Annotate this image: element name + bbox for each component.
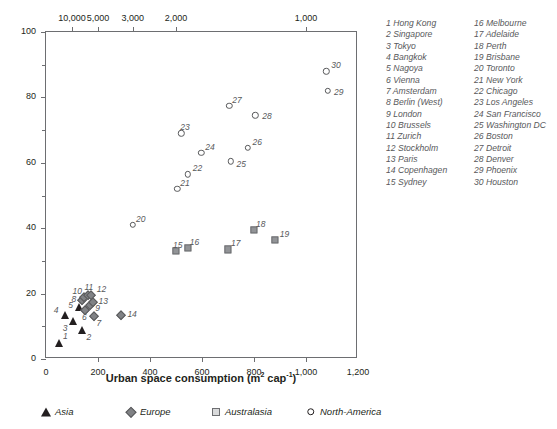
city-index-item: 17 Adelaide <box>474 29 552 40</box>
y-tick <box>41 228 46 229</box>
x-tick-top <box>176 27 177 32</box>
data-point-label: 4 <box>54 305 59 315</box>
city-index-number: 11 <box>386 131 395 141</box>
city-index-item: 30 Houston <box>474 177 552 188</box>
legend-item-europe[interactable]: Europe <box>125 406 171 417</box>
legend-item-north-america[interactable]: North-America <box>305 406 381 417</box>
x-tick <box>98 357 99 362</box>
city-index-item: 9 London <box>386 109 464 120</box>
legend-item-australasia[interactable]: Australasia <box>210 406 272 417</box>
city-index-item: 4 Bangkok <box>386 52 464 63</box>
city-index-item: 16 Melbourne <box>474 18 552 29</box>
y-tick-label: 40 <box>6 222 36 232</box>
x-tick-label: 1,000 <box>281 367 331 377</box>
city-index-column-left: 1 Hong Kong2 Singapore3 Tokyo4 Bangkok5 … <box>386 18 464 188</box>
data-point-label: 2 <box>86 332 91 342</box>
city-index-name: San Francisco <box>484 109 541 119</box>
data-point-label: 13 <box>99 296 108 306</box>
data-point-label: 29 <box>334 87 343 97</box>
city-index-number: 29 <box>474 165 484 175</box>
city-index-number: 17 <box>474 29 484 39</box>
city-index-number: 18 <box>474 41 484 51</box>
city-index-item: 28 Denver <box>474 154 552 165</box>
city-index-name: Berlin (West) <box>391 97 443 107</box>
y-tick-minor <box>42 130 46 131</box>
city-index-item: 14 Copenhagen <box>386 165 464 176</box>
city-index-number: 10 <box>386 120 396 130</box>
data-point-label: 16 <box>190 237 199 247</box>
city-index-name: Perth <box>484 41 507 51</box>
filled-triangle-marker <box>69 317 77 325</box>
city-index-number: 30 <box>474 177 484 187</box>
x-tick-label-top: 2,000 <box>151 13 201 23</box>
city-index-name: Houston <box>484 177 518 187</box>
y-tick-minor <box>42 65 46 66</box>
filled-diamond-marker <box>117 310 126 319</box>
city-index-name: Toronto <box>484 63 515 73</box>
city-index-name: London <box>391 109 422 119</box>
city-index-number: 14 <box>386 165 396 175</box>
city-index-number: 24 <box>474 109 484 119</box>
data-point-label: 22 <box>193 163 202 173</box>
data-point-label: 19 <box>280 229 289 239</box>
data-point-label: 10 <box>72 286 81 296</box>
city-index-name: Stockholm <box>396 143 439 153</box>
city-index-number: 27 <box>474 143 484 153</box>
city-index-name: Boston <box>484 131 513 141</box>
city-index-item: 29 Phoenix <box>474 165 552 176</box>
city-index-item: 21 New York <box>474 75 552 86</box>
data-point-label: 24 <box>205 142 214 152</box>
y-tick-minor <box>42 261 46 262</box>
city-index-item: 5 Nagoya <box>386 63 464 74</box>
filled-triangle-marker <box>61 311 69 319</box>
data-point-label: 28 <box>262 111 271 121</box>
city-index-item: 25 Washington DC <box>474 120 552 131</box>
y-tick <box>41 294 46 295</box>
y-tick-label: 0 <box>6 353 36 363</box>
filled-square-marker <box>271 236 278 243</box>
data-point-label: 21 <box>180 178 189 188</box>
city-index-number: 28 <box>474 154 484 164</box>
city-index-item: 20 Toronto <box>474 63 552 74</box>
open-circle-marker <box>227 158 233 164</box>
y-tick <box>41 163 46 164</box>
city-index-number: 20 <box>474 63 484 73</box>
data-point-label: 20 <box>136 214 145 224</box>
city-index-name: Tokyo <box>391 41 416 51</box>
data-point-label: 7 <box>97 318 102 328</box>
city-index-item: 22 Chicago <box>474 86 552 97</box>
y-tick <box>41 359 46 360</box>
y-tick <box>41 97 46 98</box>
y-tick-label: 60 <box>6 157 36 167</box>
city-index-name: Bangkok <box>391 52 427 62</box>
city-index-number: 12 <box>386 143 396 153</box>
open-circle-marker <box>244 145 250 151</box>
x-tick <box>254 357 255 362</box>
city-index-name: Detroit <box>484 143 512 153</box>
data-point-label: 27 <box>232 95 241 105</box>
x-tick <box>202 357 203 362</box>
data-point-label: 30 <box>331 60 340 70</box>
legend-item-asia[interactable]: Asia <box>40 406 73 417</box>
y-tick-minor <box>42 326 46 327</box>
data-point-label: 15 <box>173 240 182 250</box>
city-index-name: Hong Kong <box>391 18 436 28</box>
city-index-number: 25 <box>474 120 484 130</box>
city-index-name: Singapore <box>391 29 433 39</box>
x-tick-top <box>98 27 99 32</box>
legend-label: Asia <box>55 406 73 417</box>
city-index-name: Zurich <box>395 131 421 141</box>
y-tick-label: 100 <box>6 26 36 36</box>
city-index-name: Washington DC <box>484 120 546 130</box>
city-index-item: 10 Brussels <box>386 120 464 131</box>
x-tick <box>306 357 307 362</box>
city-index-item: 3 Tokyo <box>386 41 464 52</box>
y-tick-minor <box>42 196 46 197</box>
city-index-item: 18 Perth <box>474 41 552 52</box>
data-point-label: 12 <box>97 284 106 294</box>
city-index-column-right: 16 Melbourne17 Adelaide18 Perth19 Brisba… <box>474 18 552 188</box>
city-index-item: 11 Zurich <box>386 131 464 142</box>
city-index-item: 13 Paris <box>386 154 464 165</box>
data-point-label: 14 <box>127 309 136 319</box>
city-index-item: 12 Stockholm <box>386 143 464 154</box>
